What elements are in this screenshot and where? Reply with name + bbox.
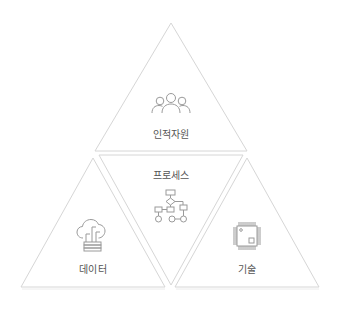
label-tech: 기술 [238,261,256,276]
label-process: 프로세스 [153,167,190,182]
label-data: 데이터 [79,261,107,276]
triangle-diagram [0,0,341,309]
label-human: 인적자원 [153,126,190,141]
